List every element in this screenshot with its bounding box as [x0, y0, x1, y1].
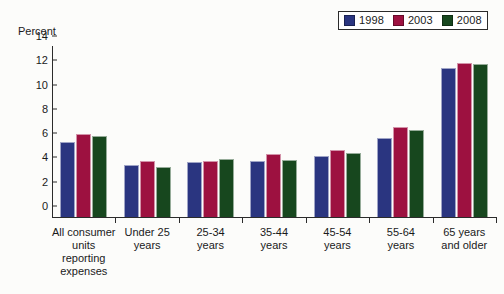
legend-swatch-2008: [442, 15, 453, 26]
legend-label-2008: 2008: [457, 15, 482, 26]
bar-2008: [282, 160, 297, 217]
bar-group: [242, 47, 305, 217]
bar-2003: [457, 63, 472, 217]
bar-group-bars: [242, 47, 305, 217]
legend-swatch-2003: [393, 15, 404, 26]
bar-2008: [409, 130, 424, 217]
y-tick-label: 0: [42, 201, 52, 212]
bar-group-bars: [179, 47, 242, 217]
y-tick-label: 12: [36, 55, 52, 66]
bar-group-bars: [306, 47, 369, 217]
x-axis-line: [52, 217, 496, 218]
y-tick-label: 10: [36, 79, 52, 90]
x-axis-separator: [433, 217, 434, 223]
bar-2003: [393, 127, 408, 217]
chart-canvas: 1998 2003 2008 Percent 02468101214 All c…: [0, 0, 504, 294]
bar-group-bars: [115, 47, 178, 217]
x-axis-separator: [242, 217, 243, 223]
bar-1998: [250, 161, 265, 217]
x-category-label: 65 years and older: [427, 226, 502, 252]
chart-legend: 1998 2003 2008: [338, 11, 488, 30]
y-tick-label: 8: [42, 103, 52, 114]
legend-label-1998: 1998: [359, 15, 384, 26]
y-tick-label: 4: [42, 152, 52, 163]
plot-area: 02468101214: [52, 47, 496, 217]
bar-1998: [377, 138, 392, 217]
bar-1998: [124, 165, 139, 217]
legend-item-1998: 1998: [344, 15, 384, 26]
bar-1998: [441, 68, 456, 217]
bar-group: [179, 47, 242, 217]
bar-group: [433, 47, 496, 217]
bar-2008: [473, 64, 488, 217]
y-tick-label: 14: [36, 31, 52, 42]
bar-1998: [314, 156, 329, 217]
y-tick-mark: [52, 36, 57, 37]
legend-swatch-1998: [344, 15, 355, 26]
y-tick-label: 2: [42, 176, 52, 187]
bar-2008: [156, 167, 171, 217]
bar-group-bars: [433, 47, 496, 217]
bar-2008: [92, 136, 107, 217]
bar-2008: [346, 153, 361, 217]
legend-label-2003: 2003: [408, 15, 433, 26]
bar-group: [52, 47, 115, 217]
bar-2003: [266, 154, 281, 217]
bar-group-bars: [52, 47, 115, 217]
legend-item-2008: 2008: [442, 15, 482, 26]
bar-group: [369, 47, 432, 217]
x-axis-separator: [369, 217, 370, 223]
x-axis-separator: [115, 217, 116, 223]
bar-2003: [140, 161, 155, 217]
legend-item-2003: 2003: [393, 15, 433, 26]
x-axis-separator: [179, 217, 180, 223]
bar-2003: [203, 161, 218, 217]
bar-1998: [60, 142, 75, 217]
bar-group: [115, 47, 178, 217]
y-tick-label: 6: [42, 128, 52, 139]
bar-2003: [76, 134, 91, 217]
y-tick-14: 14: [36, 31, 57, 42]
bar-group: [306, 47, 369, 217]
bar-group-bars: [369, 47, 432, 217]
bar-1998: [187, 162, 202, 217]
x-axis-separator: [306, 217, 307, 223]
x-axis-end-tick: [496, 217, 497, 223]
bar-2008: [219, 159, 234, 217]
bar-2003: [330, 150, 345, 217]
